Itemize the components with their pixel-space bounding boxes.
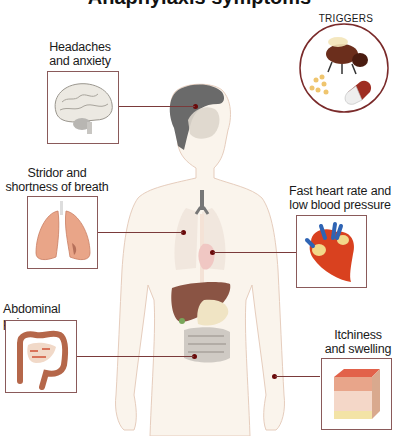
heart-icon xyxy=(297,216,366,287)
headache-label-line2: and anxiety xyxy=(40,54,120,68)
head-connector-line xyxy=(118,106,195,107)
heart-connector-line xyxy=(213,252,297,253)
brain-image-box xyxy=(47,71,119,144)
lungs-image-box xyxy=(27,196,98,269)
skin-label-line1: Itchiness xyxy=(318,328,398,342)
skin-label: Itchiness and swelling xyxy=(318,328,398,356)
lungs-connector-line xyxy=(97,232,183,233)
stridor-label: Stridor and shortness of breath xyxy=(2,166,112,194)
lungs-icon xyxy=(28,197,97,268)
brain-icon xyxy=(48,72,118,143)
heart-image-box xyxy=(296,215,367,288)
abdomen-connector-line xyxy=(77,356,194,357)
skin-image-box xyxy=(321,358,392,430)
intestines-icon xyxy=(6,321,76,392)
heart-label: Fast heart rate and low blood pressure xyxy=(280,184,399,212)
stridor-label-line1: Stridor and xyxy=(2,166,112,180)
heart-label-line2: low blood pressure xyxy=(280,198,399,212)
headache-label-line1: Headaches xyxy=(40,40,120,54)
skin-label-line2: and swelling xyxy=(318,342,398,356)
skin-layers-icon xyxy=(322,359,391,429)
headache-label: Headaches and anxiety xyxy=(40,40,120,68)
heart-label-line1: Fast heart rate and xyxy=(280,184,399,198)
skin-connector-line xyxy=(275,376,320,377)
stridor-label-line2: shortness of breath xyxy=(2,180,112,194)
triggers-circle xyxy=(298,22,390,114)
intestines-image-box xyxy=(5,320,77,393)
